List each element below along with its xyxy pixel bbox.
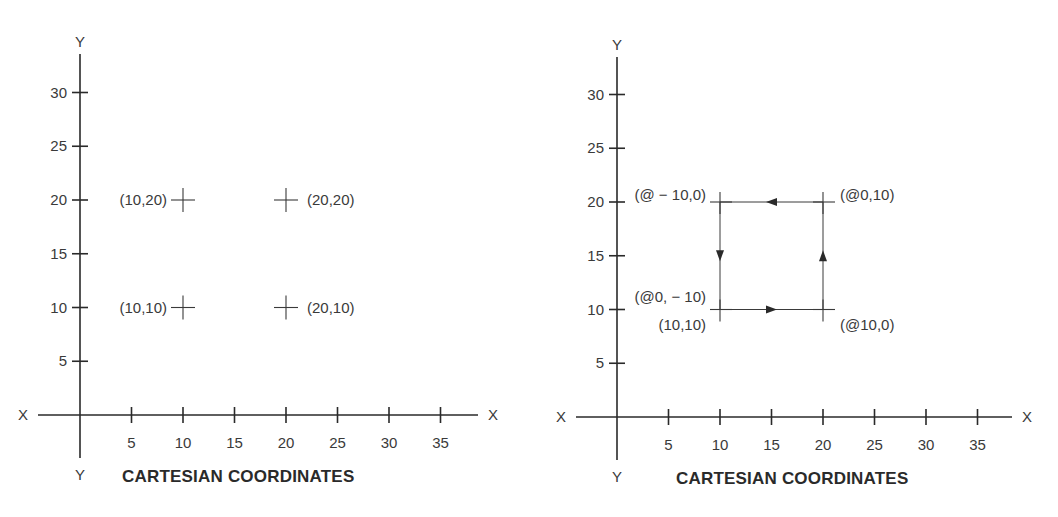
x-tick-label: 20: [278, 434, 295, 451]
y-tick-label: 15: [50, 245, 67, 262]
x-tick-label: 15: [763, 436, 780, 453]
y-tick-label: 15: [587, 247, 604, 264]
point-label: (20,10): [307, 299, 355, 316]
x-tick-label: 10: [175, 434, 192, 451]
chart-panel-left: YYXX510152025303551015202530CARTESIAN CO…: [18, 33, 498, 486]
x-tick-label: 10: [712, 436, 729, 453]
direction-arrow-icon: [716, 250, 724, 261]
x-tick-label: 5: [127, 434, 135, 451]
x-tick-label: 25: [329, 434, 346, 451]
x-tick-label: 20: [815, 436, 832, 453]
x-axis-label-left: X: [556, 408, 566, 425]
direction-arrow-icon: [766, 198, 777, 206]
chart-caption: CARTESIAN COORDINATES: [676, 469, 908, 488]
y-tick-label: 10: [50, 299, 67, 316]
y-axis-label-top: Y: [612, 36, 622, 53]
y-tick-label: 25: [587, 139, 604, 156]
y-tick-label: 5: [596, 354, 604, 371]
chart-caption: CARTESIAN COORDINATES: [122, 467, 354, 486]
y-tick-label: 25: [50, 137, 67, 154]
y-axis-label-top: Y: [75, 33, 85, 50]
y-tick-label: 30: [587, 86, 604, 103]
y-tick-label: 5: [59, 352, 67, 369]
y-tick-label: 10: [587, 301, 604, 318]
x-tick-label: 15: [226, 434, 243, 451]
x-axis-label-right: X: [1022, 408, 1032, 425]
direction-arrow-icon: [766, 306, 777, 314]
cartesian-diagrams: YYXX510152025303551015202530CARTESIAN CO…: [0, 0, 1058, 517]
x-tick-label: 35: [432, 434, 449, 451]
x-tick-label: 5: [664, 436, 672, 453]
coordinate-annotation: (@10,0): [840, 316, 894, 333]
coordinate-annotation: (10,10): [658, 316, 706, 333]
y-axis-label-bottom: Y: [612, 468, 622, 485]
x-tick-label: 35: [969, 436, 986, 453]
point-label: (10,20): [119, 191, 167, 208]
coordinate-annotation: (@0,10): [840, 186, 894, 203]
x-tick-label: 25: [866, 436, 883, 453]
x-axis-label-right: X: [488, 406, 498, 423]
y-axis-label-bottom: Y: [75, 466, 85, 483]
coordinate-annotation: (@ − 10,0): [634, 186, 706, 203]
y-tick-label: 20: [587, 193, 604, 210]
x-axis-label-left: X: [18, 406, 28, 423]
y-tick-label: 30: [50, 84, 67, 101]
point-label: (20,20): [307, 191, 355, 208]
x-tick-label: 30: [381, 434, 398, 451]
x-tick-label: 30: [918, 436, 935, 453]
point-label: (10,10): [119, 299, 167, 316]
direction-arrow-icon: [819, 250, 827, 261]
chart-panel-right: YYXX510152025303551015202530CARTESIAN CO…: [556, 36, 1032, 488]
y-tick-label: 20: [50, 191, 67, 208]
coordinate-annotation: (@0, − 10): [634, 288, 706, 305]
